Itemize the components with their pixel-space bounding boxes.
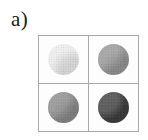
grid-cell-top-left	[39, 36, 89, 84]
grid-cell-bottom-left	[39, 84, 89, 132]
sample-circle-top-left	[48, 44, 79, 75]
sample-circle-top-right	[98, 44, 129, 75]
sample-grid	[38, 35, 139, 132]
sample-circle-bottom-right	[98, 92, 129, 123]
grid-cell-bottom-right	[89, 84, 139, 132]
sample-circle-bottom-left	[48, 92, 79, 123]
texture-speckle-icon	[98, 92, 129, 123]
texture-speckle-icon	[98, 44, 129, 75]
texture-speckle-icon	[48, 92, 79, 123]
panel-label: a)	[11, 7, 28, 31]
figure-panel: a)	[0, 0, 148, 140]
texture-speckle-icon	[48, 44, 79, 75]
grid-cell-top-right	[89, 36, 139, 84]
